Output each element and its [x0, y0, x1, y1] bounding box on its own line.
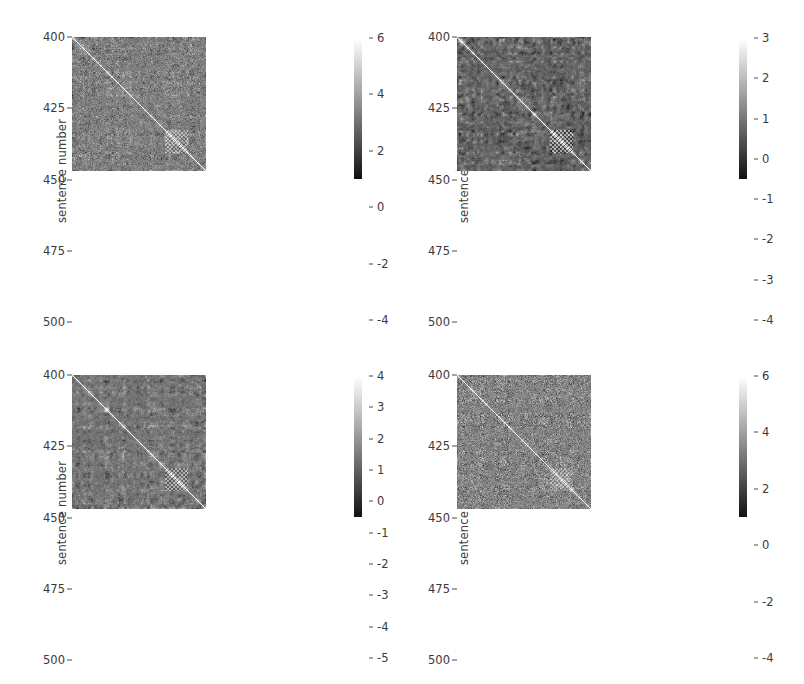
colorbar-tick-mark: [369, 150, 373, 151]
y-tick-mark: [452, 250, 457, 251]
colorbar-tick-mark: [754, 199, 758, 200]
y-axis-label: sentence number: [55, 119, 69, 223]
panel-top-left: sentence number 400425450475500 6420-2-4: [0, 0, 402, 342]
y-tick-mark: [452, 179, 457, 180]
y-tick-mark: [67, 322, 72, 323]
colorbar-tick-mark: [369, 376, 373, 377]
colorbar-bottom-left: 43210-1-2-3-4-5: [354, 376, 369, 658]
colorbar-canvas: [739, 376, 747, 517]
colorbar-tick-mark: [369, 438, 373, 439]
colorbar-tick-mark: [754, 239, 758, 240]
colorbar-top-right: 3210-1-2-3-4: [739, 38, 754, 320]
y-tick-mark: [67, 37, 72, 38]
colorbar-canvas: [354, 376, 362, 517]
colorbar-tick-mark: [754, 376, 758, 377]
panel-top-right: sentence number 400425450475500 3210-1-2…: [402, 0, 804, 342]
y-tick-mark: [452, 660, 457, 661]
colorbar-canvas: [739, 38, 747, 179]
colorbar-tick-mark: [369, 658, 373, 659]
y-tick-mark: [67, 660, 72, 661]
colorbar-tick-mark: [754, 320, 758, 321]
y-tick-mark: [67, 375, 72, 376]
colorbar-tick-mark: [369, 564, 373, 565]
colorbar-canvas: [354, 38, 362, 179]
heatmap-canvas: [457, 375, 591, 518]
y-tick-mark: [67, 446, 72, 447]
colorbar-tick-mark: [754, 601, 758, 602]
colorbar-tick-mark: [369, 320, 373, 321]
colorbar-tick-mark: [754, 158, 758, 159]
panel-bottom-left: sentence number 400425450475500 43210-1-…: [0, 342, 402, 684]
heatmap-canvas: [457, 37, 591, 180]
colorbar-tick-mark: [369, 207, 373, 208]
colorbar-tick-mark: [369, 470, 373, 471]
y-tick-mark: [452, 446, 457, 447]
y-tick-mark: [67, 250, 72, 251]
heatmap-bottom-left[interactable]: 400425450475500: [72, 375, 340, 660]
colorbar-tick-mark: [754, 118, 758, 119]
heatmap-bottom-right[interactable]: 400425450475500: [457, 375, 725, 660]
y-tick-mark: [67, 179, 72, 180]
colorbar-tick-mark: [369, 501, 373, 502]
colorbar-tick-mark: [754, 488, 758, 489]
figure-grid: sentence number 400425450475500 6420-2-4…: [0, 0, 804, 684]
colorbar-tick-mark: [369, 263, 373, 264]
y-tick-mark: [452, 375, 457, 376]
y-tick-mark: [452, 517, 457, 518]
y-tick-mark: [452, 588, 457, 589]
colorbar-bottom-right: 6420-2-4: [739, 376, 754, 658]
y-tick-mark: [67, 517, 72, 518]
colorbar-tick-mark: [369, 407, 373, 408]
colorbar-tick-mark: [754, 279, 758, 280]
panel-bottom-right: sentence number 400425450475500 6420-2-4: [402, 342, 804, 684]
colorbar-tick-mark: [369, 595, 373, 596]
colorbar-tick-mark: [369, 38, 373, 39]
colorbar-tick-mark: [754, 432, 758, 433]
y-tick-mark: [452, 322, 457, 323]
heatmap-canvas: [72, 375, 206, 518]
colorbar-tick-mark: [369, 626, 373, 627]
heatmap-canvas: [72, 37, 206, 180]
y-tick-mark: [452, 108, 457, 109]
heatmap-top-right[interactable]: 400425450475500: [457, 37, 725, 322]
y-tick-mark: [67, 108, 72, 109]
heatmap-top-left[interactable]: 400425450475500: [72, 37, 340, 322]
colorbar-tick-mark: [754, 545, 758, 546]
colorbar-tick-mark: [369, 532, 373, 533]
y-tick-mark: [67, 588, 72, 589]
colorbar-tick-mark: [754, 38, 758, 39]
colorbar-tick-mark: [369, 94, 373, 95]
colorbar-tick-mark: [754, 658, 758, 659]
y-tick-mark: [452, 37, 457, 38]
colorbar-top-left: 6420-2-4: [354, 38, 369, 320]
colorbar-tick-mark: [754, 78, 758, 79]
